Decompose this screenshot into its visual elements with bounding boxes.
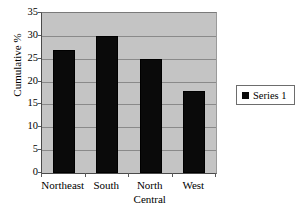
bar-chart: Cumulative % 05101520253035 NortheastSou… [0, 0, 301, 218]
x-axis-labels: NortheastSouthNorthCentralWest [41, 178, 215, 212]
y-tick-label: 5 [14, 144, 38, 154]
y-tick-label: 25 [14, 53, 38, 63]
y-tick-label: 30 [14, 30, 38, 40]
x-tick-mark [172, 173, 173, 177]
x-tick-mark [85, 173, 86, 177]
legend-swatch-icon [242, 92, 249, 99]
plot-area [41, 12, 217, 174]
bar [53, 50, 75, 173]
legend[interactable]: Series 1 [236, 85, 295, 105]
y-tick-label: 10 [14, 121, 38, 131]
y-tick-label: 0 [14, 167, 38, 177]
bar [183, 91, 205, 173]
x-tick-label-line: South [93, 179, 119, 191]
x-tick-label-line: West [182, 179, 204, 191]
bar [96, 36, 118, 173]
x-tick-label: West [166, 178, 222, 192]
bars-layer [42, 13, 216, 173]
legend-label-series-1: Series 1 [253, 90, 287, 101]
y-tick-label: 15 [14, 98, 38, 108]
x-tick-mark [41, 173, 42, 177]
x-tick-mark [128, 173, 129, 177]
y-tick-label: 35 [14, 7, 38, 17]
x-tick-mark [215, 173, 216, 177]
y-tick-label: 20 [14, 76, 38, 86]
bar [140, 59, 162, 173]
x-tick-label-line: Central [122, 192, 178, 206]
x-tick-label-line: North [137, 179, 163, 191]
y-axis-tick-labels: 05101520253035 [14, 12, 38, 172]
